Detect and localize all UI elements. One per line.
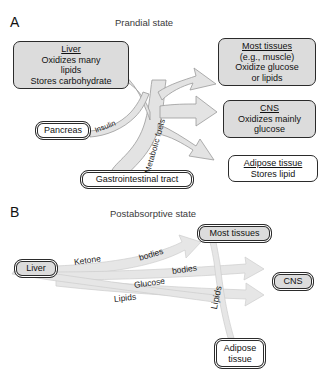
node-pancreas-title: Pancreas: [39, 125, 87, 136]
node-cns-title: CNS: [227, 103, 312, 114]
node-adipose-line-1: Stores lipid: [232, 169, 314, 180]
node-cns-line-2: glucose: [227, 124, 312, 135]
node-liver-title: Liver: [17, 44, 125, 55]
node-cns[interactable]: CNS Oxidizes mainly glucose: [223, 100, 316, 138]
node-gi-title: Gastrointestinal tract: [84, 174, 190, 185]
node-cns-b-title: CNS: [275, 276, 311, 287]
node-liver-line-2: lipids: [17, 65, 125, 76]
node-adipose-b-line-2: tissue: [217, 354, 263, 365]
panel-b-postabsorptive-state: B Postabsorptive state Liver Most tissue…: [0, 196, 327, 384]
node-most-tissues-line-2: Oxidize glucose: [222, 62, 312, 73]
node-liver-line-1: Oxidizes many: [17, 55, 125, 66]
node-most-tissues-line-3: or lipids: [222, 73, 312, 84]
node-most-tissues[interactable]: Most tissues (e.g., muscle) Oxidize gluc…: [218, 38, 316, 86]
node-liver-b-title: Liver: [17, 263, 55, 274]
node-adipose-b[interactable]: Adipose tissue: [214, 338, 266, 369]
node-pancreas[interactable]: Pancreas: [35, 121, 91, 140]
arrow-hub-to-most-tissues: [158, 68, 216, 100]
node-adipose-tissue[interactable]: Adipose tissue Stores lipid: [228, 155, 318, 182]
node-adipose-b-line-1: Adipose: [217, 343, 263, 354]
node-most-tissues-line-1: (e.g., muscle): [222, 52, 312, 63]
node-most-tissues-b[interactable]: Most tissues: [197, 224, 272, 243]
node-liver-line-3: Stores carbohydrate: [17, 76, 125, 87]
node-adipose-title: Adipose tissue: [232, 158, 314, 169]
node-most-tissues-b-title: Most tissues: [200, 228, 269, 239]
node-liver[interactable]: Liver Oxidizes many lipids Stores carboh…: [13, 41, 129, 89]
node-cns-b[interactable]: CNS: [272, 272, 314, 291]
arrow-adipose-lipids-up: [208, 232, 234, 338]
node-cns-line-1: Oxidizes mainly: [227, 114, 312, 125]
arrow-hub-to-adipose: [158, 124, 214, 160]
node-gastrointestinal-tract[interactable]: Gastrointestinal tract: [80, 170, 194, 189]
node-liver-b[interactable]: Liver: [14, 259, 58, 278]
node-most-tissues-title: Most tissues: [222, 41, 312, 52]
panel-a-prandial-state: A Prandial state Liver Oxidizes many lip…: [0, 0, 327, 196]
arrow-hub-to-cns: [160, 96, 217, 126]
